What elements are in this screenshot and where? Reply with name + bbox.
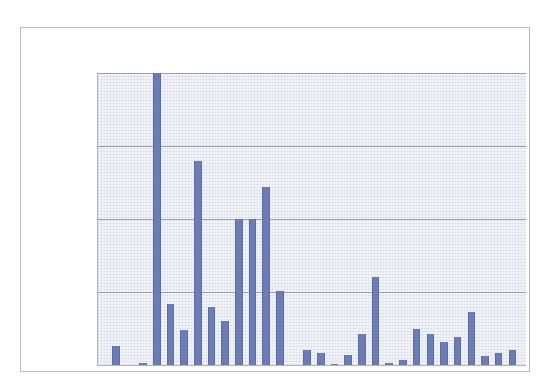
bar <box>167 304 175 365</box>
bar <box>481 356 489 365</box>
bar <box>276 291 284 365</box>
x-tick-mark <box>519 365 520 366</box>
x-tick-mark <box>382 365 383 366</box>
bar <box>495 353 503 365</box>
bar <box>208 307 216 365</box>
bar <box>194 161 202 365</box>
bar <box>262 187 270 365</box>
bar <box>235 219 243 365</box>
bar <box>358 334 366 365</box>
bar <box>399 360 407 365</box>
plot-area: 0500100015002000 19801985199019952000200… <box>97 73 526 366</box>
bar <box>427 334 435 365</box>
y-tick-mark <box>97 219 98 220</box>
x-tick-mark <box>109 365 110 366</box>
x-tick-mark <box>246 365 247 366</box>
bar <box>413 329 421 365</box>
gridline <box>98 73 526 74</box>
x-tick-mark <box>314 365 315 366</box>
bar <box>221 321 229 365</box>
gridline <box>98 146 526 147</box>
y-tick-mark <box>97 365 98 366</box>
bar <box>385 363 393 365</box>
y-tick-mark <box>97 292 98 293</box>
bar <box>153 73 161 365</box>
bar <box>249 219 257 365</box>
y-tick-mark <box>97 146 98 147</box>
x-tick-mark <box>451 365 452 366</box>
bar <box>180 330 188 365</box>
bar <box>331 364 339 365</box>
bar <box>139 363 147 365</box>
gridline <box>98 292 526 293</box>
bar <box>372 277 380 365</box>
bar <box>303 350 311 365</box>
bar <box>468 312 476 365</box>
bar <box>509 350 517 365</box>
bar <box>112 346 120 365</box>
bar <box>454 337 462 365</box>
chart-figure: 0500100015002000 19801985199019952000200… <box>0 0 543 384</box>
bar <box>344 355 352 365</box>
x-tick-mark <box>177 365 178 366</box>
y-tick-mark <box>97 73 98 74</box>
bar <box>317 353 325 365</box>
bar <box>440 342 448 365</box>
gridline <box>98 219 526 220</box>
chart-frame: 0500100015002000 19801985199019952000200… <box>20 27 530 372</box>
